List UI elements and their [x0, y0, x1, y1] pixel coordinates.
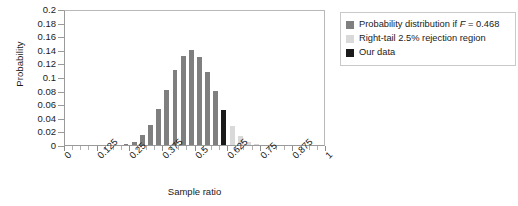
chart-bar — [221, 110, 226, 145]
chart-root: Probability 0.20.180.160.140.120.10.080.… — [0, 0, 518, 206]
legend-item-rejection[interactable]: Right-tail 2.5% rejection region — [346, 32, 510, 45]
x-tick-minor — [219, 146, 220, 150]
x-axis-title: Sample ratio — [64, 186, 325, 197]
chart-bar — [254, 144, 259, 145]
chart-bar — [148, 125, 153, 145]
y-tick-label: 0.16 — [12, 32, 56, 42]
chart-bar — [213, 91, 218, 145]
x-tick-minor — [186, 146, 187, 150]
x-tick-minor — [121, 146, 122, 150]
legend-swatch-icon — [346, 35, 354, 43]
chart-bar — [230, 126, 235, 145]
legend-label: Probability distribution if F = 0.468 — [359, 19, 499, 30]
x-tick-minor — [88, 146, 89, 150]
x-tick-label: 0 — [62, 149, 74, 161]
y-tick-label: 0.06 — [12, 100, 56, 110]
chart-bar — [197, 57, 202, 145]
bar-series — [65, 11, 324, 145]
x-tick-label: 1 — [323, 149, 335, 161]
plot-area — [64, 10, 325, 146]
x-tick-minor — [72, 146, 73, 150]
chart-bar — [164, 90, 169, 145]
y-tick-label: 0.12 — [12, 59, 56, 69]
y-tick-label: 0.02 — [12, 127, 56, 137]
legend-label: Our data — [359, 47, 395, 58]
x-tick-minor — [317, 146, 318, 150]
legend-swatch-icon — [346, 21, 354, 29]
x-tick-minor — [154, 146, 155, 150]
y-tick-label: 0.1 — [12, 73, 56, 83]
legend-swatch-icon — [346, 49, 354, 57]
chart-bar — [156, 109, 161, 145]
y-tick-label: 0.2 — [12, 5, 56, 15]
x-tick-minor — [80, 146, 81, 150]
legend-label: Right-tail 2.5% rejection region — [359, 33, 486, 44]
x-tick-minor — [284, 146, 285, 150]
legend-item-ourdata[interactable]: Our data — [346, 46, 510, 59]
chart-bar — [173, 70, 178, 145]
y-tick-label: 0 — [12, 141, 56, 151]
x-tick-minor — [252, 146, 253, 150]
y-tick-label: 0.18 — [12, 19, 56, 29]
y-tick-label: 0.08 — [12, 87, 56, 97]
legend-item-distribution[interactable]: Probability distribution if F = 0.468 — [346, 18, 510, 31]
chart-legend: Probability distribution if F = 0.468Rig… — [340, 12, 516, 66]
y-tick-label: 0.04 — [12, 114, 56, 124]
chart-bar — [189, 50, 194, 145]
chart-bar — [181, 56, 186, 145]
chart-bar — [205, 72, 210, 145]
x-tick-minor — [211, 146, 212, 150]
y-tick-label: 0.14 — [12, 46, 56, 56]
chart-bar — [124, 144, 129, 145]
